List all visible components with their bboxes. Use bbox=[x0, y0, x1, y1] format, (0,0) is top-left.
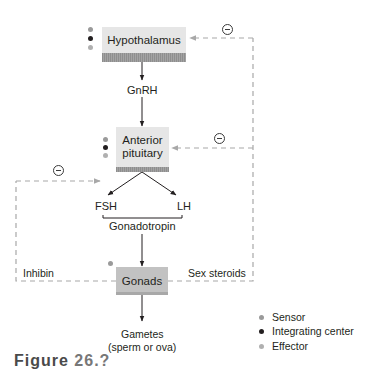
gnrh-label: GnRH bbox=[127, 84, 158, 96]
gonadotropin-label: Gonadotropin bbox=[109, 220, 176, 232]
effector-dot bbox=[103, 153, 108, 158]
arrow-pituitary-to-lh bbox=[142, 172, 176, 195]
legend-label: Integrating center bbox=[272, 325, 354, 337]
feedback-sex-steroids-path bbox=[168, 38, 253, 281]
effector-dot bbox=[259, 344, 264, 349]
arrow-pituitary-to-fsh bbox=[108, 172, 142, 195]
gonadotropin-bracket bbox=[103, 215, 182, 218]
lh-label: LH bbox=[177, 200, 191, 212]
fsh-label: FSH bbox=[95, 200, 117, 212]
anterior-pituitary-label-line1: Anterior bbox=[122, 134, 162, 147]
sensor-dot bbox=[259, 315, 264, 320]
anterior-pituitary-box: Anterior pituitary bbox=[116, 127, 169, 172]
inhibition-minus-icon bbox=[214, 133, 225, 144]
legend-item-sensor: Sensor bbox=[259, 311, 305, 323]
gametes-label-line1: Gametes bbox=[121, 328, 164, 340]
gametes-label-line2: (sperm or ova) bbox=[108, 341, 176, 353]
feedback-inhibin-path bbox=[16, 181, 116, 281]
legend-item-integrating-center: Integrating center bbox=[259, 325, 354, 337]
gonads-label: Gonads bbox=[122, 275, 162, 288]
figure-caption: Figure 26.? bbox=[14, 352, 110, 370]
integrating-center-dot bbox=[259, 329, 264, 334]
sensor-dot bbox=[103, 137, 108, 142]
legend-item-effector: Effector bbox=[259, 340, 308, 352]
hypothalamus-box: Hypothalamus bbox=[102, 27, 186, 62]
caption-prefix: Figure bbox=[14, 352, 69, 369]
inhibition-minus-icon bbox=[222, 24, 233, 35]
anterior-pituitary-label-line2: pituitary bbox=[122, 147, 162, 160]
legend-label: Effector bbox=[272, 340, 308, 352]
integrating-center-dot bbox=[88, 36, 93, 41]
caption-number: 26.? bbox=[74, 352, 110, 369]
integrating-center-dot bbox=[103, 145, 108, 150]
effector-dot bbox=[88, 45, 93, 50]
inhibition-minus-icon bbox=[53, 165, 64, 176]
legend-label: Sensor bbox=[272, 311, 305, 323]
sensor-dot bbox=[108, 261, 113, 266]
sensor-dot bbox=[88, 27, 93, 32]
gonads-box: Gonads bbox=[116, 267, 168, 295]
sex-steroids-label: Sex steroids bbox=[188, 267, 246, 279]
inhibin-label: Inhibin bbox=[23, 267, 54, 279]
hypothalamus-label: Hypothalamus bbox=[107, 34, 181, 47]
